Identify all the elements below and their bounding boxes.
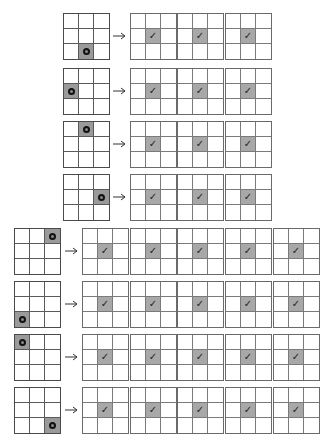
grid-cell bbox=[15, 259, 30, 274]
circle-marker-icon bbox=[83, 48, 90, 55]
grid-cell bbox=[274, 312, 289, 327]
grid-cell bbox=[226, 297, 241, 312]
grid-cell bbox=[208, 282, 223, 297]
grid-cell bbox=[208, 244, 223, 259]
output-grid: ✓ bbox=[273, 387, 320, 434]
circle-marker-icon bbox=[19, 339, 26, 346]
source-grid bbox=[63, 174, 110, 221]
grid-cell bbox=[304, 365, 319, 380]
grid-cell bbox=[289, 418, 304, 433]
grid-cell bbox=[161, 259, 176, 274]
grid-cell bbox=[131, 312, 146, 327]
grid-cell bbox=[226, 99, 241, 114]
source-grid bbox=[14, 387, 61, 434]
grid-cell bbox=[178, 229, 193, 244]
output-grid: ✓ bbox=[225, 174, 272, 221]
transformation-row: ✓✓✓✓✓ bbox=[0, 334, 330, 380]
grid-cell: ✓ bbox=[241, 403, 256, 418]
grid-cell bbox=[241, 69, 256, 84]
grid-cell bbox=[208, 99, 223, 114]
grid-cell bbox=[79, 29, 94, 44]
grid-cell bbox=[161, 418, 176, 433]
grid-cell bbox=[131, 365, 146, 380]
check-icon: ✓ bbox=[149, 299, 157, 309]
grid-cell bbox=[178, 297, 193, 312]
grid-cell bbox=[131, 137, 146, 152]
grid-cell bbox=[208, 152, 223, 167]
grid-cell bbox=[83, 365, 98, 380]
grid-cell bbox=[193, 205, 208, 220]
grid-cell bbox=[226, 29, 241, 44]
grid-cell bbox=[94, 205, 109, 220]
grid-cell bbox=[208, 205, 223, 220]
transformation-row: ✓✓✓ bbox=[0, 13, 330, 59]
grid-cell bbox=[274, 335, 289, 350]
grid-cell bbox=[131, 388, 146, 403]
grid-cell bbox=[256, 418, 271, 433]
grid-cell bbox=[83, 312, 98, 327]
grid-cell bbox=[193, 388, 208, 403]
check-icon: ✓ bbox=[101, 246, 109, 256]
output-grid: ✓ bbox=[130, 334, 177, 381]
grid-cell bbox=[113, 335, 128, 350]
grid-cell bbox=[83, 388, 98, 403]
grid-cell bbox=[83, 403, 98, 418]
grid-cell bbox=[256, 122, 271, 137]
grid-cell bbox=[178, 259, 193, 274]
grid-cell bbox=[226, 205, 241, 220]
transformation-row: ✓✓✓✓✓ bbox=[0, 281, 330, 327]
check-icon: ✓ bbox=[196, 31, 204, 41]
grid-cell: ✓ bbox=[241, 190, 256, 205]
grid-cell bbox=[208, 29, 223, 44]
transformation-row: ✓✓✓ bbox=[0, 121, 330, 167]
grid-cell: ✓ bbox=[146, 244, 161, 259]
grid-cell bbox=[256, 14, 271, 29]
grid-cell bbox=[208, 137, 223, 152]
grid-cell: ✓ bbox=[289, 297, 304, 312]
grid-cell bbox=[226, 259, 241, 274]
grid-cell bbox=[131, 282, 146, 297]
grid-cell bbox=[226, 190, 241, 205]
output-grid: ✓ bbox=[177, 228, 224, 275]
grid-cell bbox=[226, 365, 241, 380]
check-icon: ✓ bbox=[196, 246, 204, 256]
grid-cell bbox=[208, 175, 223, 190]
grid-cell bbox=[64, 69, 79, 84]
grid-cell bbox=[79, 69, 94, 84]
grid-cell: ✓ bbox=[193, 244, 208, 259]
grid-cell bbox=[98, 335, 113, 350]
grid-cell: ✓ bbox=[146, 403, 161, 418]
grid-cell bbox=[241, 229, 256, 244]
grid-cell bbox=[178, 388, 193, 403]
grid-cell bbox=[94, 152, 109, 167]
output-grid: ✓ bbox=[130, 228, 177, 275]
check-icon: ✓ bbox=[149, 192, 157, 202]
grid-cell bbox=[289, 229, 304, 244]
check-icon: ✓ bbox=[292, 405, 300, 415]
grid-cell bbox=[208, 388, 223, 403]
grid-cell bbox=[146, 388, 161, 403]
grid-cell bbox=[64, 190, 79, 205]
grid-cell bbox=[304, 297, 319, 312]
check-icon: ✓ bbox=[101, 299, 109, 309]
output-grid: ✓ bbox=[177, 281, 224, 328]
grid-cell bbox=[64, 44, 79, 59]
grid-cell bbox=[131, 350, 146, 365]
grid-cell bbox=[79, 99, 94, 114]
grid-cell bbox=[113, 350, 128, 365]
grid-cell bbox=[178, 190, 193, 205]
grid-cell: ✓ bbox=[289, 350, 304, 365]
grid-cell bbox=[178, 137, 193, 152]
grid-cell bbox=[193, 44, 208, 59]
grid-cell bbox=[241, 335, 256, 350]
grid-cell bbox=[83, 282, 98, 297]
grid-cell bbox=[64, 122, 79, 137]
grid-cell bbox=[226, 350, 241, 365]
grid-cell bbox=[146, 418, 161, 433]
grid-cell bbox=[256, 175, 271, 190]
right-arrow-icon bbox=[65, 404, 79, 416]
grid-cell bbox=[193, 229, 208, 244]
output-grid: ✓ bbox=[177, 121, 224, 168]
grid-cell bbox=[274, 282, 289, 297]
grid-cell bbox=[256, 282, 271, 297]
